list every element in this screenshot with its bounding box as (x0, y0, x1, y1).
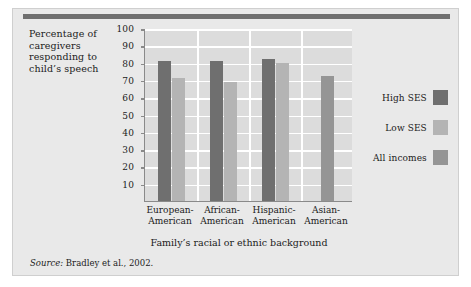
bar-high-ses (158, 61, 171, 201)
y-axis-tick-mark (141, 29, 146, 31)
y-axis-tick-label: 30 (122, 145, 134, 155)
x-axis-tick-label-line: Asian- (296, 205, 356, 216)
source-label: Source: (30, 258, 63, 268)
y-axis-tick-label: 60 (122, 93, 134, 103)
x-axis-tick-label: Hispanic-American (244, 205, 304, 226)
legend-item: Low SES (373, 117, 448, 138)
y-axis-tick-label: 20 (122, 162, 134, 172)
y-axis-tick-mark (141, 116, 146, 118)
legend-color-swatch (433, 150, 448, 165)
y-axis-tick-mark (141, 167, 146, 169)
y-axis-tick-label: 50 (122, 111, 134, 121)
y-axis-tick-label: 100 (117, 24, 134, 34)
y-axis-tick-mark (141, 46, 146, 48)
bar-low-ses (224, 82, 237, 201)
x-axis-tick-label-line: American (192, 216, 252, 227)
bar-high-ses (210, 61, 223, 201)
y-axis-tick-label: 90 (122, 41, 134, 51)
source-divider (23, 252, 450, 253)
legend-item-label: High SES (382, 93, 427, 103)
legend-color-swatch (433, 120, 448, 135)
x-axis-tick-label: Asian-American (296, 205, 356, 226)
y-axis-tick-mark (141, 64, 146, 66)
legend-item: High SES (373, 87, 448, 108)
figure-top-rule (23, 14, 450, 19)
y-axis-tick-mark (141, 98, 146, 100)
x-axis-tick-label: African-American (192, 205, 252, 226)
x-axis-tick-label-line: European- (140, 205, 200, 216)
x-axis-tick-label-line: Hispanic- (244, 205, 304, 216)
bar-low-ses (276, 63, 289, 201)
legend-color-swatch (433, 90, 448, 105)
y-axis-caption: Percentage of caregivers responding to c… (29, 28, 111, 74)
legend-item: All incomes (373, 147, 448, 168)
x-axis-tick-label-line: American (140, 216, 200, 227)
x-axis-title: Family’s racial or ethnic background (126, 237, 352, 248)
legend-item-label: Low SES (385, 123, 427, 133)
y-axis-tick-mark (141, 133, 146, 135)
y-axis-tick-label: 70 (122, 76, 134, 86)
y-axis-tick-label: 40 (122, 128, 134, 138)
gridline-vertical (197, 29, 199, 201)
y-axis-tick-mark (141, 81, 146, 83)
gridline-vertical (249, 29, 251, 201)
bar-high-ses (262, 59, 275, 201)
gridline-vertical (301, 29, 303, 201)
source-citation: Bradley et al., 2002. (63, 258, 153, 268)
legend-item-label: All incomes (373, 153, 427, 163)
x-axis-tick-label-line: African- (192, 205, 252, 216)
y-axis-tick-label: 10 (122, 180, 134, 190)
chart-legend: High SESLow SESAll incomes (373, 87, 448, 177)
y-axis-tick-mark (141, 150, 146, 152)
chart-plot-area: 102030405060708090100 (126, 29, 352, 202)
x-axis-tick-label: European-American (140, 205, 200, 226)
y-axis-tick-mark (141, 185, 146, 187)
bar-all-incomes (321, 76, 334, 201)
y-axis-tick-label: 80 (122, 59, 134, 69)
x-axis-tick-label-line: American (244, 216, 304, 227)
x-axis-tick-label-line: American (296, 216, 356, 227)
source-line: Source: Bradley et al., 2002. (30, 258, 153, 268)
figure-panel: Percentage of caregivers responding to c… (12, 8, 459, 276)
chart-plot-inner: 102030405060708090100 (144, 29, 352, 202)
bar-low-ses (172, 78, 185, 201)
